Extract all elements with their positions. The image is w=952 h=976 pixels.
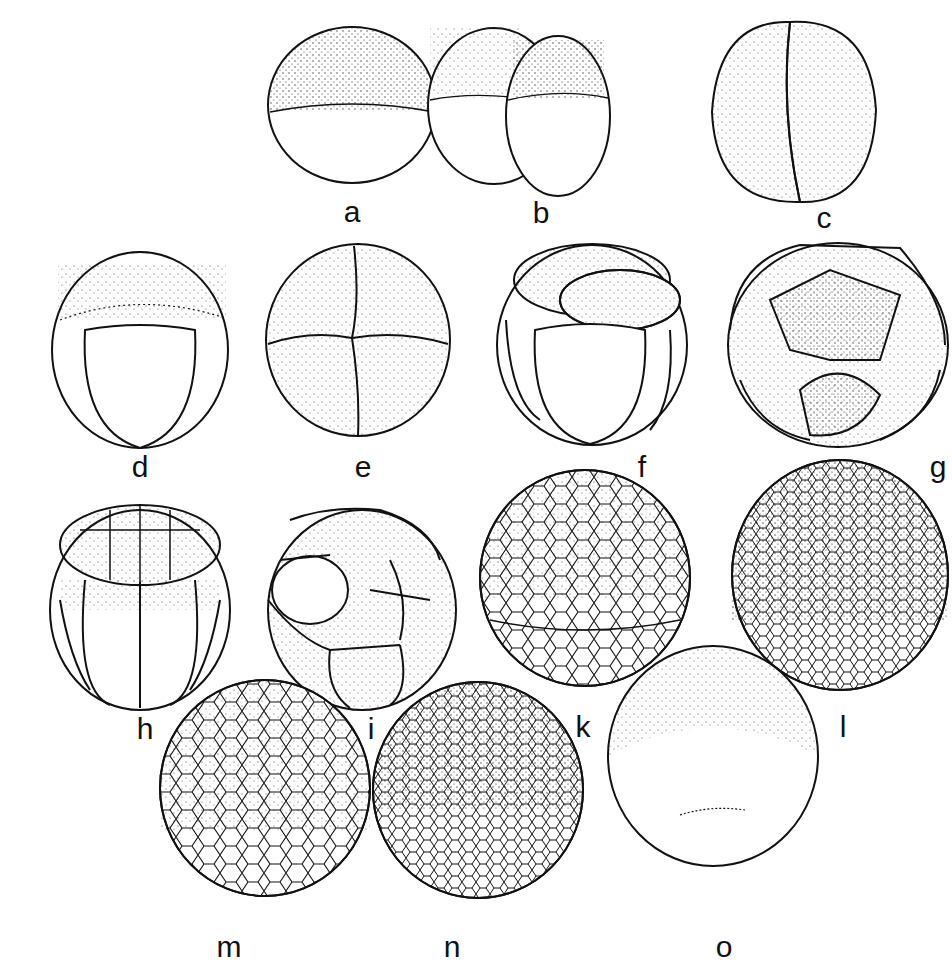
stage-a-embryo	[268, 27, 436, 183]
stage-i-embryo	[268, 509, 456, 710]
label-d: d	[132, 452, 149, 482]
label-o: o	[716, 932, 733, 962]
stage-g-embryo	[728, 243, 948, 447]
label-b: b	[533, 198, 550, 228]
stage-c-embryo	[712, 22, 876, 202]
stage-d-embryo	[52, 252, 228, 448]
label-k: k	[576, 712, 591, 742]
label-c: c	[817, 203, 832, 233]
stage-k-embryo	[480, 470, 690, 686]
stage-o-embryo	[608, 646, 818, 866]
stage-m-embryo	[160, 680, 370, 896]
label-h: h	[137, 714, 154, 744]
label-g: g	[930, 452, 947, 482]
stage-e-embryo	[266, 244, 450, 436]
label-l: l	[840, 712, 847, 742]
stage-n-embryo	[373, 682, 583, 898]
label-n: n	[444, 932, 461, 962]
stage-b-embryo	[428, 28, 610, 196]
label-f: f	[638, 452, 646, 482]
stage-h-embryo	[50, 505, 230, 710]
label-a: a	[344, 197, 361, 227]
label-e: e	[355, 452, 372, 482]
cleavage-figure	[0, 0, 952, 976]
label-m: m	[217, 932, 242, 962]
stage-f-embryo	[497, 244, 687, 445]
label-i: i	[368, 714, 375, 744]
stage-l-embryo	[732, 460, 948, 690]
